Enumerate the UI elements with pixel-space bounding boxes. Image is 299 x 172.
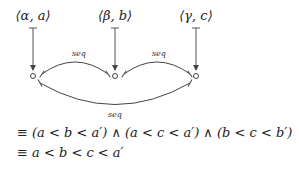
- equation-line-2: ≡ a < b < c < a′: [17, 145, 124, 160]
- node-beta: [113, 74, 118, 79]
- node-label-gamma: ⟨γ, c⟩: [179, 8, 212, 23]
- node-gamma: [194, 74, 199, 79]
- node-label-alpha: ⟨α, a⟩: [16, 8, 51, 23]
- node-label-beta: ⟨β, b⟩: [98, 8, 132, 23]
- equation-line-1: ≡ (a < b < a′) ∧ (a < c < a′) ∧ (b < c <…: [17, 125, 292, 140]
- edge-label-seq-1: seq: [72, 49, 86, 58]
- node-alpha: [31, 74, 36, 79]
- edge-label-seq-3: seq: [108, 110, 122, 119]
- edge-label-seq-2: seq: [152, 49, 166, 58]
